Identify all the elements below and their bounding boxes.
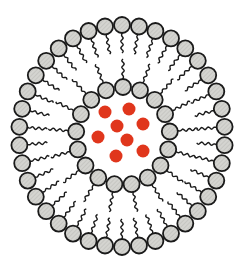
outer-lipid-head xyxy=(217,119,233,135)
outer-lipid-tail xyxy=(91,39,98,58)
outer-lipid-head xyxy=(190,203,206,219)
inner-lipid-head xyxy=(140,170,156,186)
inner-lipid-tail xyxy=(122,59,124,79)
inner-lipid-head xyxy=(73,106,89,122)
inner-lipid-head xyxy=(160,141,176,157)
outer-lipid-head xyxy=(14,155,30,171)
outer-lipid-head xyxy=(177,40,193,56)
inner-lipid-tail xyxy=(109,192,113,212)
outer-lipid-tail xyxy=(43,181,60,192)
outer-lipid-head xyxy=(208,173,224,189)
outer-lipid-tail xyxy=(158,45,168,63)
inner-lipid-head xyxy=(106,176,122,192)
outer-lipid-head xyxy=(11,119,27,135)
inner-lipid-tail xyxy=(133,192,138,212)
cargo-particle xyxy=(110,150,123,163)
outer-lipid-tail xyxy=(91,215,97,234)
inner-lipid-tail xyxy=(72,79,86,94)
outer-lipid-head xyxy=(200,189,216,205)
inner-lipid-tail xyxy=(152,185,163,202)
outer-lipid-head xyxy=(20,173,36,189)
outer-lipid-tail xyxy=(185,181,202,192)
outer-lipid-tail xyxy=(197,127,217,130)
outer-lipid-tail xyxy=(191,95,209,104)
outer-lipid-head xyxy=(97,238,113,254)
inner-lipid-tail xyxy=(172,101,190,110)
outer-lipid-head xyxy=(214,155,230,171)
outer-lipid-head xyxy=(81,23,97,39)
outer-lipid-tail xyxy=(43,80,60,91)
outer-lipid-tail xyxy=(64,55,77,71)
inner-lipid-tail xyxy=(56,102,74,111)
outer-lipid-head xyxy=(114,239,130,255)
outer-lipid-head xyxy=(81,233,97,249)
outer-lipid-head xyxy=(217,137,233,153)
outer-lipid-tail xyxy=(121,219,123,239)
outer-lipid-head xyxy=(97,19,113,35)
outer-lipid-tail xyxy=(195,111,214,117)
outer-lipid-head xyxy=(38,53,54,69)
inner-lipid-head xyxy=(78,158,94,174)
outer-lipid-head xyxy=(65,226,81,242)
inner-lipid-head xyxy=(83,92,99,108)
outer-lipid-head xyxy=(200,67,216,83)
outer-lipid-head xyxy=(163,226,179,242)
outer-lipid-tail xyxy=(134,34,138,54)
cargo-particle xyxy=(137,118,150,131)
outer-lipid-head xyxy=(147,23,163,39)
cargo-particle xyxy=(92,131,105,144)
outer-lipid-tail xyxy=(106,218,110,238)
outer-lipid-tail xyxy=(27,142,47,145)
inner-lipid-head xyxy=(124,176,140,192)
outer-lipid-head xyxy=(147,233,163,249)
outer-lipid-head xyxy=(131,19,147,35)
outer-lipid-head xyxy=(51,40,67,56)
outer-lipid-tail xyxy=(177,66,192,80)
outer-lipid-tail xyxy=(197,142,217,145)
inner-lipid-tail xyxy=(167,170,183,182)
inner-lipid-head xyxy=(132,82,148,98)
inner-lipid-tail xyxy=(160,79,173,94)
inner-lipid-tail xyxy=(48,128,68,131)
outer-lipid-tail xyxy=(191,169,209,177)
outer-lipid-head xyxy=(51,216,67,232)
outer-lipid-head xyxy=(65,30,81,46)
outer-lipid-tail xyxy=(195,156,214,161)
outer-lipid-head xyxy=(190,53,206,69)
outer-lipid-head xyxy=(163,30,179,46)
inner-lipid-head xyxy=(70,141,86,157)
inner-lipid-head xyxy=(98,82,114,98)
liposome-svg xyxy=(0,0,244,266)
outer-lipid-tail xyxy=(52,192,67,206)
inner-lipid-tail xyxy=(176,152,195,158)
outer-lipid-tail xyxy=(133,218,137,238)
outer-lipid-tail xyxy=(77,209,87,227)
outer-lipid-tail xyxy=(168,55,180,71)
outer-lipid-tail xyxy=(77,45,87,63)
cargo-particle xyxy=(121,134,134,147)
outer-lipid-tail xyxy=(121,33,123,53)
outer-lipid-head xyxy=(28,189,44,205)
cargo-particle xyxy=(99,106,112,119)
outer-lipid-head xyxy=(114,17,130,33)
cargo-particle xyxy=(137,145,150,158)
outer-lipid-tail xyxy=(30,156,49,162)
outer-lipid-tail xyxy=(35,95,53,103)
inner-lipid-head xyxy=(90,170,106,186)
inner-lipid-head xyxy=(153,158,169,174)
outer-lipid-head xyxy=(11,137,27,153)
inner-lipid-head xyxy=(162,124,178,140)
outer-lipid-tail xyxy=(185,80,202,91)
liposome-diagram: Liposome cross-section with encapsulated… xyxy=(0,0,244,266)
cargo-particle xyxy=(123,103,136,116)
outer-lipid-tail xyxy=(146,215,153,234)
outer-lipid-head xyxy=(28,67,44,83)
outer-lipid-tail xyxy=(157,209,167,227)
outer-lipid-tail xyxy=(146,39,152,58)
outer-lipid-head xyxy=(20,83,36,99)
inner-lipid-tail xyxy=(63,170,79,182)
cargo-particles xyxy=(92,103,150,163)
outer-lipid-tail xyxy=(106,34,110,54)
inner-lipid-tail xyxy=(84,185,95,202)
inner-lipid-tail xyxy=(51,152,70,158)
